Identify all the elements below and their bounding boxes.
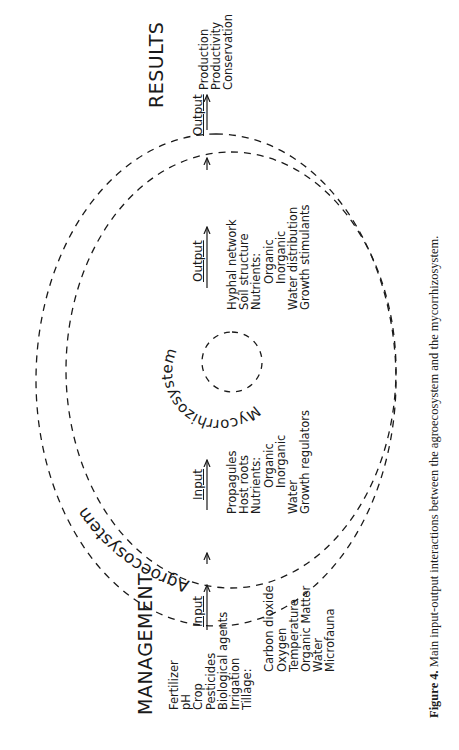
- myco-input-item: Organic: [263, 410, 275, 514]
- mycorrhizosystem-boundary: [202, 332, 262, 392]
- myco-output-item: Growth stimulants: [299, 205, 311, 311]
- results-items: Production Productivity Conservation: [198, 14, 235, 90]
- tillage-subitem: Oxygen: [276, 585, 288, 710]
- tillage-subitem: Carbon dioxide: [263, 585, 275, 710]
- tillage-subitem: Microfauna: [324, 585, 336, 710]
- figure-caption: Figure 4. Main input-output interactions…: [428, 236, 441, 718]
- agroecosystem-outer-boundary: [36, 134, 396, 626]
- results-heading: RESULTS: [147, 22, 166, 108]
- management-items: Fertilizer pH Crop Pesticides Biological…: [168, 585, 337, 710]
- myco-input-item: Growth regulators: [299, 410, 311, 514]
- management-heading: MANAGEMENT: [136, 573, 155, 715]
- management-item: Pesticides: [205, 585, 217, 710]
- figure-caption-text: Main input-output interactions between t…: [427, 236, 441, 671]
- myco-output-item: Organic: [263, 205, 275, 311]
- management-item: Fertilizer: [168, 585, 180, 710]
- agroecosystem-label: Agroecosystem: [73, 504, 191, 597]
- results-item: Conservation: [222, 14, 234, 90]
- figure-caption-label: Figure 4.: [427, 670, 441, 718]
- management-item: Crop: [192, 585, 204, 710]
- myco-input-label: Input: [192, 469, 204, 500]
- myco-input-items: Propagules Host roots Nutrients: Organic…: [226, 410, 311, 514]
- figure-frame: Agroecosystem Mycorrhizosystem MANAGEMEN…: [0, 0, 459, 750]
- myco-input-item: Nutrients:: [250, 410, 262, 514]
- myco-output-items: Hyphal network Soil structure Nutrients:…: [226, 205, 311, 311]
- myco-output-item: Nutrients:: [250, 205, 262, 311]
- management-item: Tillage:: [241, 585, 253, 710]
- results-output-label: Output: [192, 94, 204, 136]
- myco-output-label: Output: [192, 240, 204, 282]
